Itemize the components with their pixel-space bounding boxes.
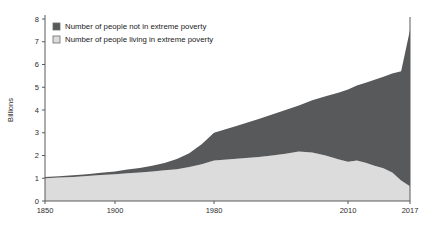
y-tick-label: 7 <box>35 37 39 46</box>
legend-swatch <box>53 36 60 43</box>
y-tick-label: 6 <box>35 60 39 69</box>
y-tick-label: 1 <box>35 174 39 183</box>
area-chart: 01234567818501900198020102017 Billions N… <box>0 0 431 228</box>
y-tick-label: 8 <box>35 15 39 24</box>
x-tick-label: 2017 <box>402 206 419 215</box>
x-tick-label: 1850 <box>37 206 54 215</box>
legend-swatch <box>53 23 60 30</box>
plot-areas <box>45 30 410 201</box>
y-tick-label: 3 <box>35 128 39 137</box>
chart-legend: Number of people not in extreme povertyN… <box>53 22 213 44</box>
y-tick-label: 5 <box>35 83 39 92</box>
legend-label: Number of people not in extreme poverty <box>65 22 206 31</box>
legend-label: Number of people living in extreme pover… <box>65 35 213 44</box>
x-tick-label: 2010 <box>340 206 357 215</box>
y-axis-title: Billions <box>6 98 15 122</box>
y-tick-label: 2 <box>35 151 39 160</box>
x-tick-label: 1980 <box>206 206 223 215</box>
y-tick-label: 0 <box>35 197 39 206</box>
chart-container: 01234567818501900198020102017 Billions N… <box>0 0 431 228</box>
x-tick-label: 1900 <box>107 206 124 215</box>
y-tick-label: 4 <box>35 106 39 115</box>
